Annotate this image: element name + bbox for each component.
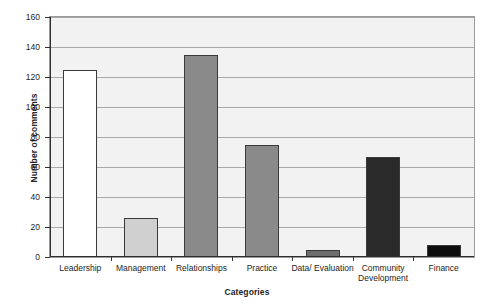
gridline: [50, 107, 474, 108]
bar: [366, 157, 400, 258]
plot-area: [49, 16, 475, 258]
y-axis-tick-label: 0: [35, 252, 40, 262]
bar: [245, 145, 279, 258]
y-axis-tick-label: 40: [31, 192, 40, 202]
y-axis-tick-label: 120: [26, 72, 40, 82]
gridline: [50, 17, 474, 18]
bar: [63, 70, 97, 258]
y-axis-tick-label: 140: [26, 42, 40, 52]
x-axis-tick: [171, 257, 172, 261]
gridline: [50, 47, 474, 48]
bar: [184, 55, 218, 258]
y-axis-tick-label: 100: [26, 102, 40, 112]
x-axis-tick: [111, 257, 112, 261]
x-axis-category-label: Finance: [407, 263, 480, 273]
bar-chart: Number of comments 020406080100120140160…: [0, 0, 494, 307]
y-axis-tick-label: 20: [31, 222, 40, 232]
x-axis-tick: [292, 257, 293, 261]
y-axis-tick: [45, 257, 50, 258]
x-axis-tick: [232, 257, 233, 261]
gridline: [50, 77, 474, 78]
y-axis-tick-label: 80: [31, 132, 40, 142]
y-axis-tick-label: 60: [31, 162, 40, 172]
bar: [124, 218, 158, 257]
x-axis-title: Categories: [0, 287, 494, 297]
gridline: [50, 137, 474, 138]
y-axis-line: [50, 17, 51, 257]
x-axis-tick: [353, 257, 354, 261]
x-axis-line: [50, 256, 474, 257]
y-axis-tick-label: 160: [26, 12, 40, 22]
x-axis-tick: [413, 257, 414, 261]
